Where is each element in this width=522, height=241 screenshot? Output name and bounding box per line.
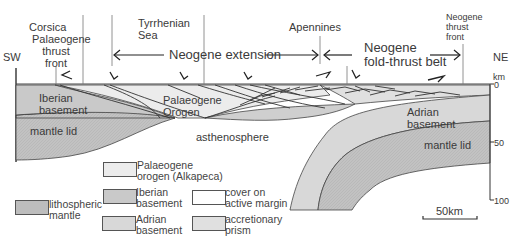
label-line: fold-thrust belt (364, 55, 446, 69)
label-line: Palaeogene (163, 94, 222, 106)
palaeogene-orogen-label: Palaeogene Orogen (163, 94, 222, 118)
label-line: basement (407, 118, 455, 130)
apennines-label: Apennines (289, 21, 341, 33)
label-line: front (32, 57, 80, 69)
depth-tick-0: 0 (494, 80, 499, 90)
legend-label-adrian-basement: Adrian basement (136, 214, 182, 236)
depth-tick-50: 50 (494, 138, 504, 148)
legend-swatch-cover-active-margin (192, 190, 226, 205)
label-line: Adrian (407, 106, 455, 118)
label-line: basement (39, 104, 87, 116)
legend-swatch-palaeogene-orogen (103, 162, 137, 177)
asthenosphere-label: asthenosphere (196, 131, 269, 143)
neogene-extension-label: Neogene extension (169, 48, 281, 62)
legend-swatch-adrian-basement (102, 216, 136, 231)
label-line: prism (225, 225, 282, 236)
tyrrhenian-sea-label: Tyrrhenian Sea (138, 17, 190, 41)
label-line: active margin (225, 198, 287, 209)
label-line: orogen (Alkapeca) (137, 171, 223, 182)
sw-label: SW (3, 51, 21, 63)
palaeogene-thrust-front-label: Palaeogene thrust front (32, 33, 80, 69)
iberian-basement-label: Iberian basement (39, 92, 87, 116)
neogene-thrust-front-label: Neogene thrust front (446, 12, 483, 42)
label-line: mantle (49, 210, 102, 221)
legend-swatch-iberian-basement (103, 189, 137, 204)
label-line: basement (136, 198, 182, 209)
label-line: Neogene (446, 12, 483, 22)
legend-label-lithospheric-mantle: lithospheric mantle (49, 199, 102, 221)
label-line: Orogen (163, 106, 222, 118)
label-line: basement (136, 225, 182, 236)
mantle-lid-right-label: mantle lid (424, 139, 471, 151)
motion-symbols (62, 70, 444, 82)
label-line: Neogene (364, 41, 446, 55)
label-line: Sea (138, 29, 190, 41)
legend-swatch-accretionary-prism (192, 216, 226, 231)
legend-swatch-lithospheric-mantle (15, 200, 49, 215)
label-line: front (446, 32, 483, 42)
legend-label-iberian-basement: Iberian basement (136, 187, 182, 209)
ne-label: NE (493, 51, 508, 63)
adrian-basement-label: Adrian basement (407, 106, 455, 130)
label-line: Palaeogene (32, 33, 80, 45)
neogene-fold-thrust-label: Neogene fold-thrust belt (364, 41, 446, 69)
scale-bar-label: 50km (436, 205, 463, 217)
label-line: Tyrrhenian (138, 17, 190, 29)
label-line: thrust (32, 45, 80, 57)
depth-tick-100: 100 (494, 196, 509, 206)
label-line: thrust (446, 22, 483, 32)
legend-label-accretionary-prism: accretionary prism (225, 214, 282, 236)
legend-label-cover-active-margin: cover on active margin (225, 187, 287, 209)
corsica-label: Corsica (29, 21, 66, 33)
mantle-lid-left-label: mantle lid (30, 125, 77, 137)
legend-label-palaeogene-orogen: Palaeogene orogen (Alkapeca) (137, 160, 223, 182)
label-line: Iberian (39, 92, 87, 104)
